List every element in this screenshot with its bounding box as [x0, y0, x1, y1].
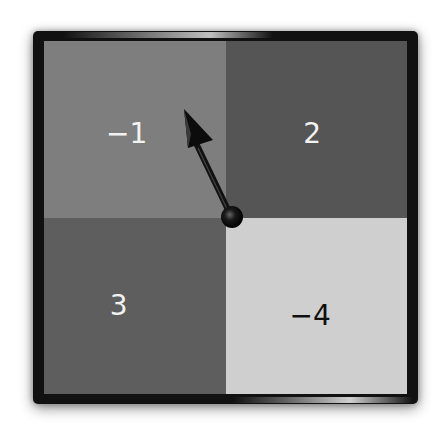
frame-highlight-top — [63, 32, 273, 38]
spinner-board: −1 2 3 −4 — [44, 41, 407, 394]
spinner-frame: −1 2 3 −4 — [33, 31, 418, 404]
section-label: 3 — [110, 289, 128, 322]
frame-highlight-bottom — [233, 397, 413, 403]
section-label: −4 — [290, 299, 331, 332]
section-label: −1 — [106, 117, 147, 150]
section-bottom-right: −4 — [226, 218, 408, 395]
section-top-right: 2 — [226, 41, 408, 218]
section-bottom-left: 3 — [44, 218, 226, 395]
section-top-left: −1 — [44, 41, 226, 218]
section-label: 2 — [303, 117, 321, 150]
